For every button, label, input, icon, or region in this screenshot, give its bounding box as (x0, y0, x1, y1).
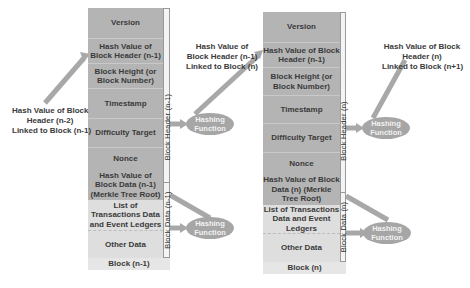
field-nonce: Nonce (88, 147, 163, 170)
hash-fn-line: Hashing (194, 219, 226, 228)
block-label: Block (n) (263, 262, 346, 274)
field-transactions-list: List of Transactions Data and Event Ledg… (263, 205, 340, 233)
note-line: Linked to Block (n-1) (12, 126, 88, 136)
field-block-height: Block Height (or Block Number) (263, 67, 340, 95)
note-prev-link: Hash Value of Block Header (n-2) Linked … (12, 106, 88, 136)
block-header-strip-label: Block Header (n) (339, 101, 348, 160)
field-timestamp: Timestamp (263, 95, 340, 123)
hash-fn-line: Function (194, 124, 226, 133)
note-mid-link: Hash Value of Block Header (n-1) Linked … (182, 42, 262, 72)
note-line: Linked to Block (n+1) (382, 62, 462, 72)
field-version: Version (88, 8, 163, 38)
field-other-data: Other Data (263, 233, 340, 262)
hashing-function-header-n: HashingFunction (362, 117, 410, 139)
note-line: Hash Value of Block (12, 106, 88, 116)
block-data-strip-label: Block Data (n) (339, 202, 348, 252)
block-label: Block (n-1) (88, 258, 170, 270)
hash-fn-line: Hashing (371, 224, 403, 233)
field-prev-header-hash: Hash Value of Block Header (n-1) (263, 42, 340, 67)
note-line: Linked to Block (n) (182, 62, 262, 72)
hash-fn-line: Function (194, 228, 226, 237)
note-line: Header (n-2) (12, 116, 88, 126)
field-prev-header-hash: Hash Value of Block Header (n-1) (88, 38, 163, 63)
field-difficulty-target: Difficulty Target (88, 118, 163, 147)
field-nonce: Nonce (263, 152, 340, 174)
block-n-minus-1: Version Hash Value of Block Header (n-1)… (88, 8, 170, 270)
block-data-strip-label: Block Data (n-1) (162, 191, 171, 248)
hashing-function-data-n: HashingFunction (363, 222, 411, 244)
block-n: Version Hash Value of Block Header (n-1)… (263, 12, 346, 274)
block-header-strip: Block Header (n-1) (163, 8, 170, 200)
block-header-strip-label: Block Header (n-1) (162, 94, 171, 161)
block-header-strip: Block Header (n) (340, 12, 346, 205)
hash-fn-line: Function (371, 233, 403, 242)
field-timestamp: Timestamp (88, 88, 163, 118)
block-data-strip: Block Data (n) (340, 192, 346, 262)
block-data-strip: Block Data (n-1) (163, 182, 170, 258)
note-line: Hash Value of Block (382, 42, 462, 52)
field-other-data: Other Data (88, 230, 163, 258)
note-next-link: Hash Value of Block Header (n) Linked to… (382, 42, 462, 72)
field-merkle-root: Hash Value of Block Data (n-1) (Merkle T… (88, 170, 163, 200)
field-difficulty-target: Difficulty Target (263, 123, 340, 152)
note-line: Header (n) (382, 52, 462, 62)
hash-fn-line: Hashing (370, 119, 402, 128)
field-block-height: Block Height (or Block Number) (88, 63, 163, 88)
field-version: Version (263, 12, 340, 42)
hashing-function-data-n-minus-1: HashingFunction (186, 217, 234, 239)
hash-fn-line: Function (370, 128, 402, 137)
hash-fn-line: Hashing (194, 115, 226, 124)
note-line: Hash Value of (182, 42, 262, 52)
hashing-function-header-n-minus-1: HashingFunction (186, 113, 234, 135)
field-merkle-root: Hash Value of Block Data (n) (Merkle Tre… (263, 174, 340, 205)
field-transactions-list: List of Transactions Data and Event Ledg… (88, 200, 163, 230)
note-line: Block Header (n-1) (182, 52, 262, 62)
